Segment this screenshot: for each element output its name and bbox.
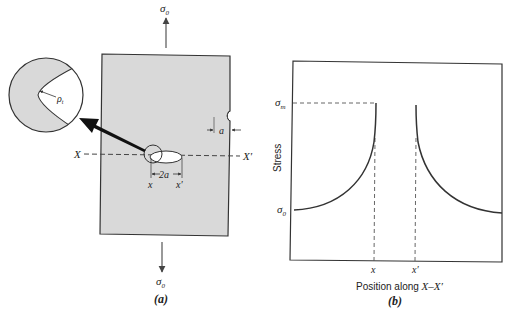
- chart-frame: [290, 61, 502, 262]
- plate: [100, 54, 230, 236]
- x-tick-x-prime: x′: [411, 264, 419, 275]
- figure-b-chart: σm σ0 Stress x x′ Position along X–X′ (b…: [272, 61, 502, 308]
- y-tick-sigma-m: σm: [275, 96, 286, 111]
- figure-a: σ0 a X X′ 2a x x′: [9, 2, 253, 306]
- crack-tip-inset: ρt: [9, 58, 90, 132]
- crack-right-tip-label: x′: [175, 179, 183, 190]
- section-left-label: X: [73, 148, 82, 160]
- caption-b: (b): [388, 294, 402, 308]
- bottom-stress-label: σ0: [156, 275, 165, 290]
- stress-concentration-figure: σ0 a X X′ 2a x x′: [0, 0, 509, 313]
- x-tick-x: x: [370, 264, 376, 275]
- y-tick-sigma-0: σ0: [277, 203, 286, 218]
- section-right-label: X′: [242, 150, 253, 162]
- y-axis-label: Stress: [272, 144, 283, 172]
- interior-crack: [150, 151, 182, 163]
- caption-a: (a): [154, 292, 168, 306]
- top-stress-label: σ0: [160, 2, 169, 17]
- crack-length-label: 2a: [159, 169, 169, 180]
- notch-depth-label: a: [219, 125, 224, 136]
- x-axis-label: Position along X–X′: [356, 280, 444, 292]
- crack-left-tip-label: x: [147, 179, 153, 190]
